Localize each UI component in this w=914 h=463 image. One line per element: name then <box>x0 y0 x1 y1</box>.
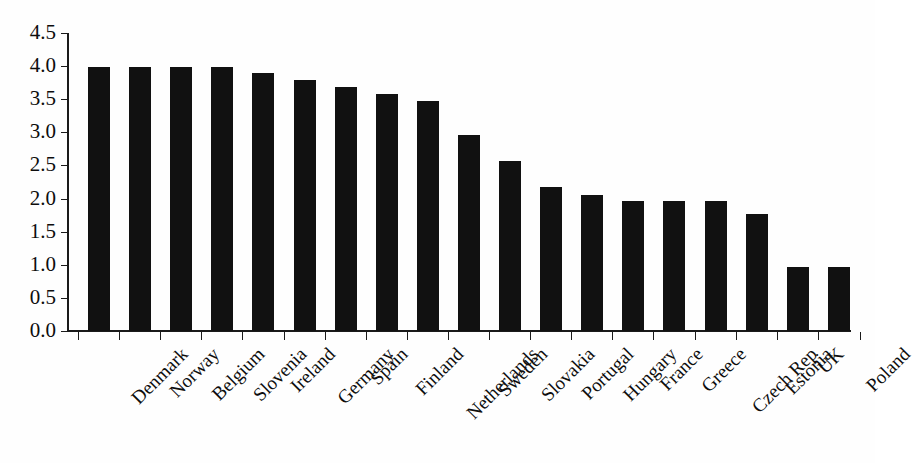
x-axis-tick <box>366 332 367 340</box>
bar <box>458 135 480 331</box>
bar <box>252 73 274 331</box>
x-axis-tick <box>201 332 202 340</box>
y-axis-tick <box>61 66 68 67</box>
y-axis-tick-label: 1.5 <box>30 221 56 242</box>
y-axis-tick-label: 0.5 <box>30 287 56 308</box>
x-axis-category-label: Finland <box>412 344 466 398</box>
y-axis-tick-label: 4.5 <box>30 22 56 43</box>
x-axis-tick <box>160 332 161 340</box>
bar <box>705 201 727 331</box>
bar <box>828 267 850 331</box>
y-axis-tick-label: 2.0 <box>30 188 56 209</box>
x-axis-category-label: Poland <box>862 344 913 395</box>
y-axis-tick-label: 3.0 <box>30 121 56 142</box>
x-axis-tick <box>325 332 326 340</box>
bar <box>787 267 809 331</box>
bar <box>170 67 192 331</box>
bar <box>211 67 233 331</box>
y-axis-tick <box>61 165 68 166</box>
x-axis-tick <box>612 332 613 340</box>
y-axis-tick <box>61 132 68 133</box>
x-axis-tick <box>818 332 819 340</box>
bar <box>88 67 110 331</box>
x-axis-tick <box>119 332 120 340</box>
bar <box>376 94 398 331</box>
x-axis-tick <box>860 332 861 340</box>
x-axis-tick <box>653 332 654 340</box>
x-axis-tick <box>777 332 778 340</box>
plot-area <box>68 33 850 331</box>
bar <box>417 101 439 331</box>
bar <box>540 187 562 331</box>
bar <box>663 201 685 331</box>
y-axis-tick-label: 0.0 <box>30 320 56 341</box>
x-axis-tick <box>284 332 285 340</box>
bar <box>129 67 151 331</box>
y-axis-tick-label: 2.5 <box>30 154 56 175</box>
x-axis-tick <box>571 332 572 340</box>
x-axis-tick <box>78 332 79 340</box>
y-axis-tick <box>61 99 68 100</box>
y-axis-tick-label: 3.5 <box>30 88 56 109</box>
x-axis-category-label: Spain <box>366 344 410 388</box>
x-axis-tick <box>242 332 243 340</box>
bar <box>294 80 316 331</box>
y-axis-tick-labels: 0.00.51.01.52.02.53.03.54.04.5 <box>0 0 56 463</box>
bar <box>622 201 644 331</box>
x-axis-tick <box>489 332 490 340</box>
y-axis-tick <box>61 331 68 332</box>
x-axis-tick <box>530 332 531 340</box>
y-axis-tick-label: 1.0 <box>30 254 56 275</box>
x-axis-tick <box>695 332 696 340</box>
bar <box>335 87 357 331</box>
y-axis-tick <box>61 265 68 266</box>
y-axis-tick <box>61 199 68 200</box>
bar <box>581 195 603 331</box>
bar <box>499 161 521 331</box>
bar <box>746 214 768 331</box>
x-axis-tick <box>448 332 449 340</box>
y-axis-tick <box>61 33 68 34</box>
x-axis-category-label: Greece <box>698 344 749 395</box>
y-axis-tick-label: 4.0 <box>30 55 56 76</box>
x-axis-tick <box>407 332 408 340</box>
y-axis-tick <box>61 298 68 299</box>
y-axis-tick <box>61 232 68 233</box>
x-axis-tick <box>736 332 737 340</box>
